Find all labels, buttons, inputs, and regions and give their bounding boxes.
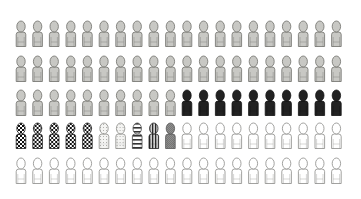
person-icon-white (166, 158, 176, 184)
person-head (166, 158, 174, 169)
person-head (233, 90, 241, 101)
person-head (33, 56, 41, 67)
person-head (216, 123, 224, 134)
person-head (50, 21, 58, 32)
person-icon-gray (298, 56, 308, 82)
person-icon-gray (332, 56, 342, 82)
person-head (183, 123, 191, 134)
person-head (233, 158, 241, 169)
person-head (133, 56, 141, 67)
person-icon-white (132, 158, 142, 184)
person-icon-black (265, 90, 275, 116)
person-head (249, 56, 257, 67)
person-icon-white (298, 123, 308, 149)
person-icon-black (182, 90, 192, 116)
person-icon-white (282, 123, 292, 149)
person-icon-gray (83, 21, 93, 47)
person-icon-gray (232, 56, 242, 82)
person-icon-gray (265, 21, 275, 47)
person-head (282, 56, 290, 67)
person-head (249, 158, 257, 169)
person-icon-white (99, 158, 109, 184)
person-head (166, 56, 174, 67)
person-head (282, 90, 290, 101)
person-head (266, 158, 274, 169)
person-head (50, 158, 58, 169)
person-head (33, 21, 41, 32)
person-icon-gray (249, 21, 259, 47)
person-head (316, 90, 324, 101)
person-icon-black (332, 90, 342, 116)
person-head (116, 90, 124, 101)
person-head (100, 21, 108, 32)
person-head (150, 123, 158, 134)
person-icon-checkered (83, 123, 93, 149)
person-head (266, 90, 274, 101)
person-icon-h-striped (132, 123, 142, 149)
person-head (299, 90, 307, 101)
person-head (282, 123, 290, 134)
person-head (299, 21, 307, 32)
person-icon-gray (132, 56, 142, 82)
person-icon-black (315, 90, 325, 116)
person-head (299, 158, 307, 169)
person-icon-gray (33, 21, 43, 47)
person-head (233, 123, 241, 134)
person-icon-gray (66, 90, 76, 116)
person-head (83, 21, 91, 32)
person-icon-gray (99, 56, 109, 82)
person-icon-gray (199, 56, 209, 82)
person-icon-gray (33, 90, 43, 116)
person-head (116, 56, 124, 67)
person-head (50, 123, 58, 134)
person-head (100, 56, 108, 67)
person-icon-gray (149, 90, 159, 116)
person-head (249, 90, 257, 101)
person-head (332, 158, 340, 169)
person-head (183, 90, 191, 101)
pictograph-chart (0, 0, 361, 199)
person-head (183, 21, 191, 32)
person-head (316, 123, 324, 134)
person-icon-gray (282, 56, 292, 82)
person-icon-checkered (49, 123, 59, 149)
person-head (199, 123, 207, 134)
person-icon-black (215, 90, 225, 116)
person-head (332, 21, 340, 32)
person-icon-white (265, 158, 275, 184)
person-head (299, 123, 307, 134)
person-head (133, 123, 141, 134)
person-icon-gray (215, 21, 225, 47)
person-head (133, 158, 141, 169)
person-head (67, 90, 75, 101)
person-icon-white (265, 123, 275, 149)
person-icon-gray (49, 90, 59, 116)
person-head (17, 158, 25, 169)
person-icon-gray (116, 21, 126, 47)
person-icon-white (332, 123, 342, 149)
person-head (33, 158, 41, 169)
person-head (316, 21, 324, 32)
person-head (266, 56, 274, 67)
person-icon-white (66, 158, 76, 184)
person-head (282, 158, 290, 169)
person-head (166, 90, 174, 101)
person-head (83, 90, 91, 101)
person-icon-gray (149, 21, 159, 47)
person-head (83, 56, 91, 67)
person-icon-gray (49, 56, 59, 82)
person-icon-gray (99, 21, 109, 47)
person-head (299, 56, 307, 67)
person-icon-gray (265, 56, 275, 82)
person-head (266, 21, 274, 32)
person-icon-dotted (116, 123, 126, 149)
person-head (216, 21, 224, 32)
person-head (183, 158, 191, 169)
person-icon-gray (332, 21, 342, 47)
person-icon-white (182, 123, 192, 149)
person-icon-white (116, 158, 126, 184)
person-head (150, 158, 158, 169)
person-head (17, 123, 25, 134)
person-icon-gray (83, 90, 93, 116)
person-head (266, 123, 274, 134)
